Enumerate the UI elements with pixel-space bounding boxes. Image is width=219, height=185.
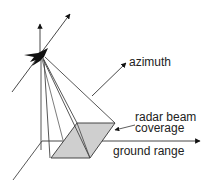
azimuth-label: azimuth	[129, 56, 171, 69]
beam-line	[43, 58, 77, 123]
nadir-line-2	[44, 60, 50, 158]
radar-beam-footprint	[51, 123, 115, 158]
ground-axis-left	[13, 141, 42, 180]
azimuth-axis	[92, 63, 126, 96]
beam-line	[45, 57, 115, 123]
coverage-leader-arrow	[115, 125, 135, 130]
ground-range-label: ground range	[113, 145, 184, 158]
radar-beam-coverage-label-line2: coverage	[135, 122, 184, 135]
radar-geometry-diagram	[0, 0, 219, 185]
